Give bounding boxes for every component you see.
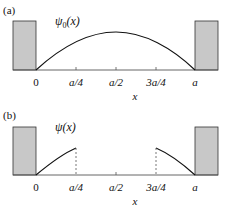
tick-label-0-b: 0 [33,181,39,193]
wavefunction-curve-a [36,32,195,70]
x-axis-label-a: x [132,90,138,102]
wavefunction-curve-b-right [156,148,195,175]
right-wall-b [195,127,218,175]
left-wall-b [13,127,36,175]
right-wall-a [195,21,218,70]
tick-label-a2-a: a/2 [109,76,124,88]
tick-label-a2-b: a/2 [109,181,124,193]
panel-a: (a) ψ0(x) 0 a/4 a/2 3a/4 a x [3,4,218,102]
wavefunction-curve-b-left [36,148,76,175]
tick-label-3a4-b: 3a/4 [145,181,166,193]
figure: (a) ψ0(x) 0 a/4 a/2 3a/4 a x (b) ψ(x) [0,0,229,209]
psi0-label: ψ0(x) [55,14,80,30]
tick-label-end-b: a [192,181,198,193]
tick-label-0-a: 0 [33,76,39,88]
psi-label: ψ(x) [55,120,76,134]
panel-b: (b) ψ(x) 0 a/4 a/2 3a/4 a x [3,109,218,207]
panel-a-label: (a) [3,4,16,17]
tick-label-a4-b: a/4 [69,181,84,193]
tick-label-end-a: a [192,76,198,88]
tick-label-3a4-a: 3a/4 [145,76,166,88]
panel-b-label: (b) [3,109,16,122]
tick-label-a4-a: a/4 [69,76,84,88]
x-axis-label-b: x [132,195,138,207]
left-wall-a [13,21,36,70]
